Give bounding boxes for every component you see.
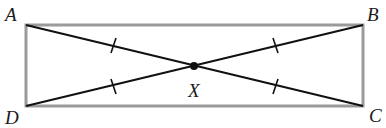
label-c: C [369, 105, 382, 126]
rectangle-diagram: A B C D X [0, 0, 386, 128]
label-a: A [3, 4, 17, 25]
label-b: B [367, 4, 379, 25]
label-x: X [187, 80, 201, 101]
label-d: D [4, 107, 19, 128]
intersection-point-x [190, 62, 198, 70]
